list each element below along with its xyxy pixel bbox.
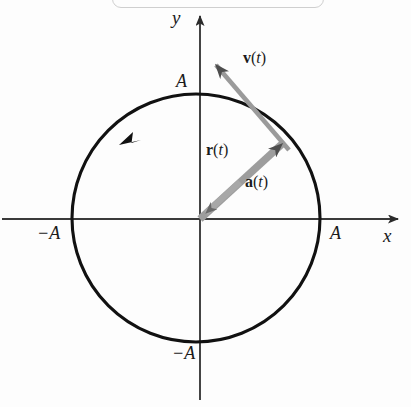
velocity-symbol: v bbox=[243, 49, 251, 66]
acceleration-symbol: a bbox=[245, 173, 253, 190]
acceleration-vector-label: a(t) bbox=[245, 174, 268, 190]
tick-label-x-positive: A bbox=[330, 224, 341, 242]
y-axis-label: y bbox=[172, 8, 180, 27]
figure-root: y x A −A −A A v(t) r(t) a(t) bbox=[0, 0, 411, 407]
acceleration-paren-close: ) bbox=[263, 173, 268, 190]
tick-label-y-positive: A bbox=[176, 72, 187, 90]
tick-label-x-negative: −A bbox=[37, 224, 60, 242]
circle-direction-arrowhead bbox=[119, 132, 141, 145]
circular-motion-diagram bbox=[0, 0, 411, 407]
position-vector-label: r(t) bbox=[206, 142, 228, 158]
acceleration-vector-shaft bbox=[206, 182, 240, 213]
velocity-vector-shaft bbox=[216, 65, 289, 150]
x-axis-label: x bbox=[383, 226, 391, 245]
position-paren-close: ) bbox=[223, 141, 228, 158]
velocity-vector-label: v(t) bbox=[243, 50, 266, 66]
velocity-paren-close: ) bbox=[261, 49, 266, 66]
tick-label-y-negative: −A bbox=[172, 344, 195, 362]
trajectory-circle bbox=[72, 94, 320, 342]
